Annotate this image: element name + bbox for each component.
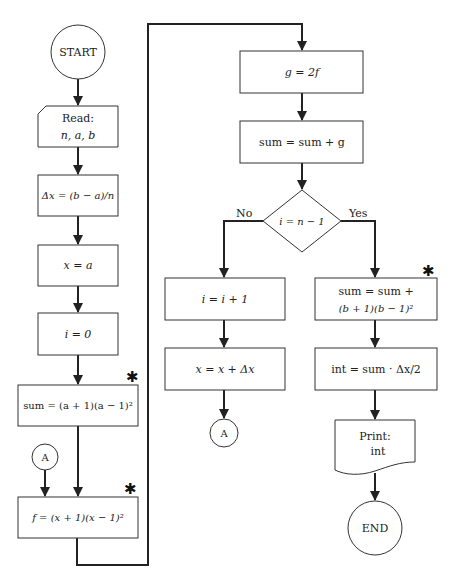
delta-x-label: Δx = (b − a)/n bbox=[41, 190, 114, 201]
asterisk-icon: ✱ bbox=[126, 368, 139, 386]
connector-label: A bbox=[40, 452, 49, 463]
read-input-node: Read: n, a, b bbox=[38, 106, 118, 147]
final-sum-line1: sum = sum + bbox=[338, 285, 413, 298]
arrow-decision-yes bbox=[341, 221, 375, 277]
increment-i-node: i = i + 1 bbox=[165, 278, 285, 320]
integral-node: int = sum · Δx/2 bbox=[315, 348, 437, 390]
decision-condition: i = n − 1 bbox=[279, 216, 324, 227]
print-output-node: Print: int bbox=[335, 420, 415, 474]
connector-out-a: A bbox=[210, 419, 238, 447]
start-terminal: START bbox=[51, 25, 105, 79]
flowchart-diagram: START Read: n, a, b Δx = (b − a)/n x = a… bbox=[0, 0, 457, 587]
connector-in-a: A bbox=[32, 444, 58, 470]
init-sum-label: sum = (a + 1)(a − 1)² bbox=[23, 400, 133, 411]
start-label: START bbox=[59, 46, 97, 59]
accumulate-label: sum = sum + g bbox=[259, 136, 345, 149]
connector-label: A bbox=[219, 428, 228, 439]
accumulate-node: sum = sum + g bbox=[240, 121, 363, 163]
integral-label: int = sum · Δx/2 bbox=[331, 363, 421, 376]
compute-f-label: f = (x + 1)(x − 1)² bbox=[31, 512, 124, 523]
print-label: Print: bbox=[359, 430, 390, 443]
arrow-decision-no bbox=[224, 221, 263, 277]
read-label: Read: bbox=[62, 112, 94, 125]
compute-g-label: g = 2f bbox=[285, 66, 321, 79]
increment-x-node: x = x + Δx bbox=[165, 348, 285, 390]
read-vars: n, a, b bbox=[61, 129, 96, 142]
print-value: int bbox=[370, 445, 386, 458]
init-x-node: x = a bbox=[38, 245, 118, 286]
end-terminal: END bbox=[348, 501, 402, 555]
decision-yes-label: Yes bbox=[348, 207, 368, 220]
asterisk-icon: ✱ bbox=[422, 262, 435, 280]
init-i-node: i = 0 bbox=[38, 313, 118, 355]
delta-x-node: Δx = (b − a)/n bbox=[38, 175, 118, 216]
increment-i-label: i = i + 1 bbox=[202, 293, 248, 306]
compute-g-node: g = 2f bbox=[240, 51, 363, 93]
increment-x-label: x = x + Δx bbox=[196, 363, 256, 376]
init-i-label: i = 0 bbox=[65, 328, 92, 341]
init-x-label: x = a bbox=[64, 259, 93, 272]
decision-no-label: No bbox=[236, 207, 253, 220]
end-label: END bbox=[362, 522, 389, 535]
final-sum-line2: (b + 1)(b − 1)² bbox=[339, 303, 414, 314]
asterisk-icon: ✱ bbox=[124, 480, 137, 498]
